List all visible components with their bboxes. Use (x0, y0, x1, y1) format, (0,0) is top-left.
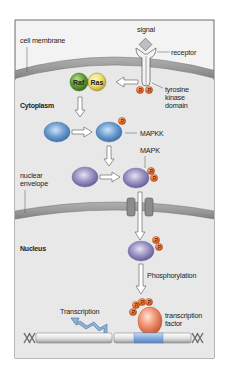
mapk-label: MAPK (140, 146, 160, 155)
mapk-phosphate-2: P (150, 174, 157, 181)
ras-protein: Ras (88, 73, 106, 91)
mapkk-label: MAPKK (140, 130, 164, 137)
raf-protein: Raf (70, 73, 88, 91)
cytoplasm-label: Cytoplasm (20, 102, 54, 110)
mapk-pathway-diagram: cell membrane signal receptor P P tyrosi… (0, 0, 227, 374)
mapkk-active (96, 122, 122, 142)
svg-text:Raf: Raf (73, 79, 85, 86)
tf-phosphate-3: P (138, 298, 145, 305)
mapk-nuclear-phosphate-2: P (155, 243, 162, 250)
tyrosine-kinase-label-3: domain (165, 101, 188, 110)
mapk-phosphate-1: P (147, 167, 154, 174)
mapk-inactive (72, 167, 98, 187)
mapkk-phosphate: P (118, 117, 125, 124)
mapk-nuclear-phosphate-1: P (152, 236, 159, 243)
dna-promoter-region (134, 333, 163, 343)
transcription-factor (138, 307, 162, 335)
transcription-factor-label-2: factor (165, 319, 183, 328)
mapk-active (123, 168, 149, 188)
svg-text:Ras: Ras (91, 79, 104, 86)
receptor-label: receptor (171, 48, 197, 57)
mapk-nuclear (128, 241, 154, 261)
signal-label: signal (137, 25, 155, 34)
nuclear-pore-left (127, 198, 135, 216)
receptor-phosphate-right: P (145, 86, 152, 93)
receptor-phosphate-left: P (136, 86, 143, 93)
phosphorylation-label: Phosphorylation (147, 271, 196, 280)
cell-membrane-label: cell membrane (20, 36, 65, 45)
nucleus-label: Nucleus (20, 245, 46, 252)
tf-phosphate-1: P (129, 308, 136, 315)
nuclear-envelope-label-2: envelope (20, 179, 48, 188)
tf-phosphate-4: P (145, 298, 152, 305)
transcription-label: Transcription (60, 307, 99, 316)
mapkk-inactive (44, 122, 70, 142)
nuclear-pore-right (145, 198, 153, 216)
